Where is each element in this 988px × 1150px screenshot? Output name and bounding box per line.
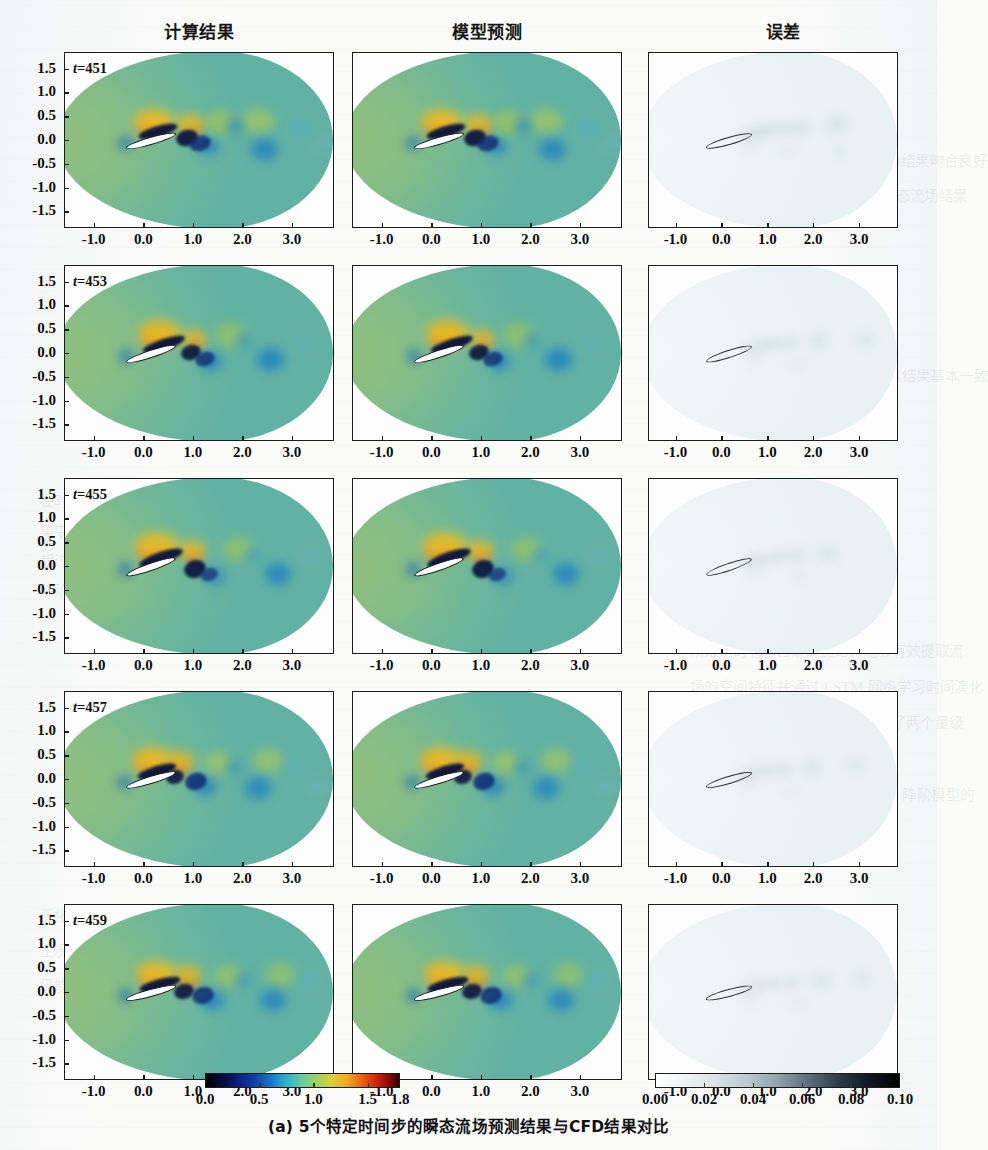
y-tick-label: 0.5 [8, 320, 56, 337]
y-tick-label: -1.0 [8, 392, 56, 409]
flow-feature [741, 144, 759, 150]
x-tick-mark [530, 436, 531, 441]
flow-feature [253, 749, 283, 773]
colorbar-error-tick-mark [753, 1083, 754, 1088]
y-tick-mark [64, 992, 69, 993]
x-tick-mark [721, 649, 722, 654]
flow-feature [776, 123, 793, 134]
flow-feature [539, 139, 566, 161]
flow-feature [548, 989, 574, 1011]
flow-feature [533, 777, 559, 799]
y-tick-mark [64, 305, 69, 306]
y-tick-mark [64, 69, 69, 70]
x-tick-label: 3.0 [554, 870, 606, 887]
x-tick-mark [481, 862, 482, 867]
y-tick-label: -0.5 [8, 794, 56, 811]
flow-feature [762, 125, 777, 136]
x-tick-label: 1.0 [167, 870, 219, 887]
x-tick-mark [813, 223, 814, 228]
y-tick-label: 0.0 [8, 557, 56, 574]
y-tick-mark [64, 850, 69, 851]
x-tick-label: -1.0 [68, 444, 120, 461]
x-tick-mark [143, 862, 144, 867]
x-tick-mark [382, 436, 383, 441]
flow-feature [787, 549, 805, 561]
colorbar-velocity-tick-mark [313, 1083, 314, 1088]
x-tick-label: 1.0 [167, 231, 219, 248]
flow-feature [532, 548, 548, 562]
flow-feature [284, 760, 302, 775]
x-tick-mark [580, 862, 581, 867]
x-tick-mark [242, 862, 243, 867]
x-tick-label: 1.0 [741, 444, 793, 461]
flow-feature [294, 334, 312, 349]
x-tick-label: 2.0 [787, 657, 839, 674]
flow-feature [587, 973, 605, 988]
y-tick-label: -1.5 [8, 1054, 56, 1071]
y-tick-label: 1.5 [8, 912, 56, 929]
colorbar-error-tick-label: 0.02 [676, 1091, 732, 1108]
x-tick-mark [242, 649, 243, 654]
flow-feature [299, 973, 317, 988]
flow-feature [572, 760, 590, 775]
y-tick-mark [64, 282, 69, 283]
y-tick-label: -0.5 [8, 1007, 56, 1024]
y-tick-mark [64, 779, 69, 780]
y-tick-mark [64, 424, 69, 425]
y-tick-mark [64, 518, 69, 519]
x-tick-label: 3.0 [833, 657, 885, 674]
y-tick-mark [64, 164, 69, 165]
x-tick-mark [143, 223, 144, 228]
y-tick-label: -0.5 [8, 155, 56, 172]
y-tick-label: -1.0 [8, 179, 56, 196]
flow-feature [235, 973, 251, 987]
x-tick-label: 1.0 [455, 870, 507, 887]
far-field-domain [648, 691, 897, 867]
y-tick-mark [64, 401, 69, 402]
column-header-model: 模型预测 [352, 18, 622, 43]
x-tick-label: -1.0 [650, 870, 702, 887]
flow-feature [855, 333, 875, 347]
y-tick-mark [64, 495, 69, 496]
y-tick-mark [64, 637, 69, 638]
x-tick-label: 3.0 [266, 657, 318, 674]
x-tick-label: 0.0 [695, 444, 747, 461]
panel-model-453 [352, 265, 622, 441]
x-tick-mark [143, 649, 144, 654]
panel-error-453 [648, 265, 898, 441]
x-tick-label: 2.0 [216, 870, 268, 887]
x-tick-mark [193, 436, 194, 441]
x-tick-label: -1.0 [68, 870, 120, 887]
y-tick-mark [64, 211, 69, 212]
flow-feature [245, 777, 271, 799]
y-tick-mark [64, 329, 69, 330]
y-tick-label: 1.5 [8, 486, 56, 503]
y-tick-label: 1.5 [8, 699, 56, 716]
x-tick-mark [382, 649, 383, 654]
time-step-label: t=451 [73, 60, 107, 77]
colorbar-error-tick-label: 0.00 [627, 1091, 683, 1108]
x-tick-label: -1.0 [650, 657, 702, 674]
y-tick-label: 0.0 [8, 983, 56, 1000]
y-tick-label: -1.5 [8, 202, 56, 219]
x-tick-label: 0.0 [117, 231, 169, 248]
flow-feature [553, 563, 579, 585]
far-field-domain [648, 265, 897, 441]
x-tick-label: 3.0 [554, 657, 606, 674]
x-tick-label: -1.0 [356, 231, 408, 248]
flow-feature [266, 963, 296, 987]
flow-feature [265, 563, 291, 585]
y-tick-mark [64, 590, 69, 591]
x-tick-label: 0.0 [117, 870, 169, 887]
flow-feature [244, 548, 260, 562]
x-tick-label: 3.0 [833, 870, 885, 887]
x-tick-mark [481, 1075, 482, 1080]
x-tick-label: 0.0 [117, 444, 169, 461]
y-tick-label: -0.5 [8, 368, 56, 385]
x-tick-mark [292, 649, 293, 654]
x-tick-label: -1.0 [68, 1083, 120, 1100]
x-tick-mark [193, 223, 194, 228]
far-field-domain [648, 904, 897, 1080]
panel-cfd-453: t=453 [64, 265, 334, 441]
